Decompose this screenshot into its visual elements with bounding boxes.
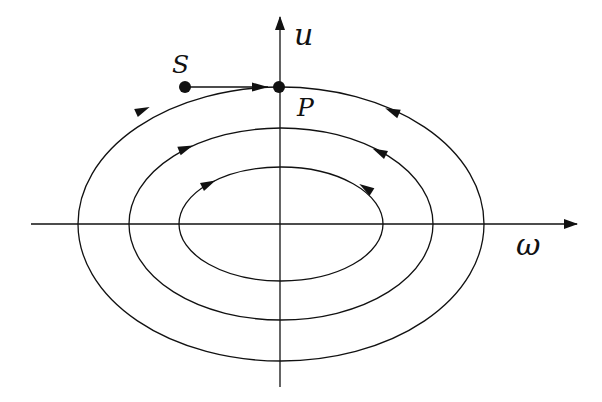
u-axis-label: u — [294, 17, 313, 52]
trajectory-arrow-icon — [252, 83, 268, 92]
omega-axis-label: ω — [516, 227, 540, 262]
direction-arrow-icon — [134, 103, 217, 191]
phase-portrait-diagram: S P u ω — [0, 0, 602, 402]
point-p — [273, 81, 285, 93]
point-s — [179, 81, 191, 93]
point-p-label: P — [296, 93, 315, 122]
point-s-label: S — [172, 50, 189, 79]
direction-arrow-icon — [357, 104, 401, 196]
